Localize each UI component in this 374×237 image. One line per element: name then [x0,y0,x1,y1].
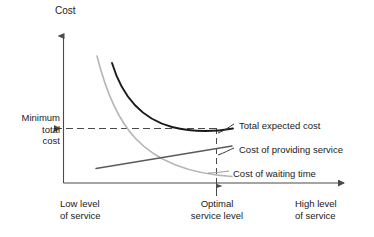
x-axis-caption-high-line-2: of service [295,210,367,222]
minimum-total-cost-line-3: cost [2,135,60,147]
minimum-total-cost-line-1: Minimum [2,112,60,124]
minimum-total-cost-line-2: total [2,124,60,136]
x-axis-caption-low: Low level of service [60,198,132,221]
x-axis-caption-optimal-line-1: Optimal [175,198,259,210]
series-cost-of-waiting-time [97,56,232,177]
curve-label-cost-of-waiting-time: Cost of waiting time [233,168,316,180]
x-axis-caption-low-line-2: of service [60,210,132,222]
x-axis-caption-high-line-1: High level [295,198,367,210]
x-axis-caption-optimal: Optimal service level [175,198,259,221]
queuing-cost-tradeoff-figure: Cost Minimum total cost Total expected c… [0,0,374,237]
curve-label-cost-of-providing-service: Cost of providing service [239,144,343,156]
minimum-total-cost-label: Minimum total cost [2,112,60,147]
x-axis-caption-high: High level of service [295,198,367,221]
leader-line-cost-of-waiting-time [208,171,229,173]
series-total-expected-cost [112,63,233,131]
axis-title-y: Cost [55,5,76,17]
x-axis-caption-optimal-line-2: service level [175,210,259,222]
leader-line-cost-of-providing-service [218,148,234,155]
series-cost-of-providing-service [96,146,232,169]
x-axis-caption-low-line-1: Low level [60,198,132,210]
curve-label-total-expected-cost: Total expected cost [239,120,320,132]
